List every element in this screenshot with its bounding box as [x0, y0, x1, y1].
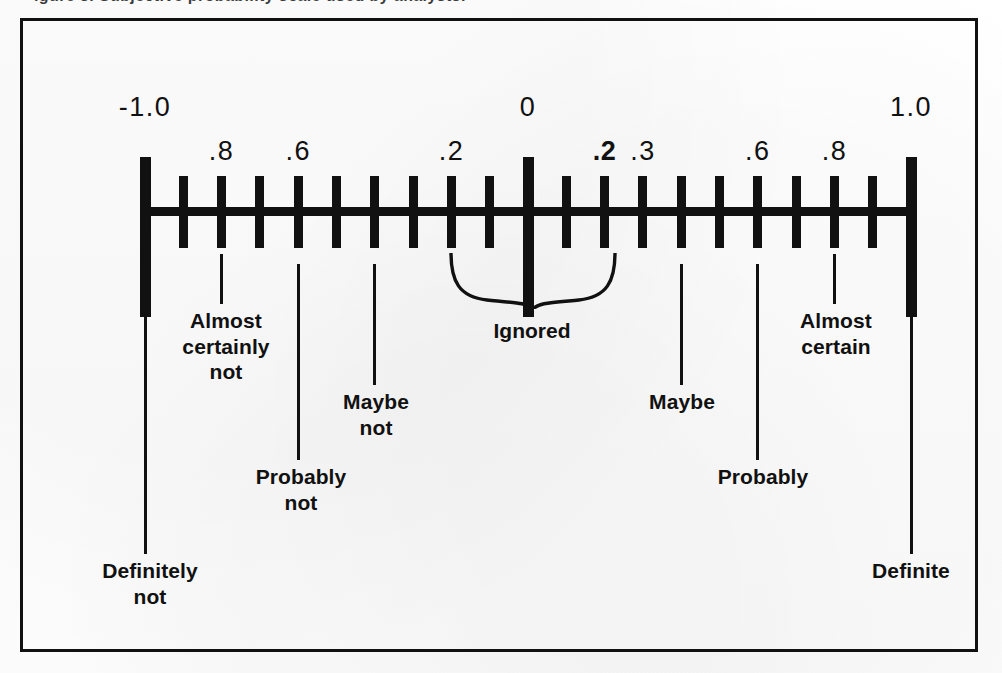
minor-tick	[562, 176, 571, 248]
minor-tick	[294, 176, 303, 248]
annotation-probably: Probably not	[256, 464, 347, 515]
ignored-region-label: Ignored	[494, 319, 571, 343]
annotation-maybe: Maybe not	[343, 389, 409, 440]
tick-label-neg0p6: .6	[285, 138, 311, 165]
minor-tick	[485, 176, 494, 248]
leader-line-probably	[297, 264, 300, 460]
minor-tick	[638, 176, 647, 248]
minor-tick	[370, 176, 379, 248]
leader-line-definite	[910, 264, 913, 554]
minor-tick	[677, 176, 686, 248]
cropped-caption-text: igure 3. Subjective probability scale us…	[34, 0, 934, 7]
tick-label-neg0p8: .8	[209, 138, 235, 165]
minor-tick	[868, 176, 877, 248]
minor-tick	[179, 176, 188, 248]
leader-line-maybe	[373, 264, 376, 385]
tick-label-1: 1.0	[890, 94, 932, 121]
annotation-almost: Almost certainly not	[182, 308, 269, 385]
minor-tick	[830, 176, 839, 248]
figure-page: igure 3. Subjective probability scale us…	[0, 0, 1002, 673]
annotation-maybe: Maybe	[649, 389, 715, 415]
tick-label-neg0p2: .2	[439, 138, 465, 165]
annotation-definitely: Definitely not	[102, 558, 198, 609]
minor-tick	[753, 176, 762, 248]
leader-line-almost	[833, 254, 836, 304]
minor-tick	[715, 176, 724, 248]
minor-tick	[255, 176, 264, 248]
leader-line-maybe	[680, 264, 683, 385]
tick-label-0p3: .3	[630, 138, 656, 165]
figure-frame-border: -1.0.8.6.20.2.3.6.81.0 Definitely notAlm…	[20, 18, 978, 652]
ignored-region-brace	[447, 253, 619, 309]
minor-tick	[792, 176, 801, 248]
tick-label-0p8: .8	[822, 138, 848, 165]
tick-label-neg1: -1.0	[119, 94, 172, 121]
tick-label-0: 0	[520, 94, 537, 121]
minor-tick	[447, 176, 456, 248]
minor-tick	[600, 176, 609, 248]
minor-tick	[217, 176, 226, 248]
leader-line-almost	[220, 254, 223, 304]
tick-label-0p6: .6	[745, 138, 771, 165]
leader-line-definitely	[144, 264, 147, 554]
tick-label-0p2: .2	[593, 138, 617, 165]
minor-tick	[332, 176, 341, 248]
annotation-probably: Probably	[718, 464, 809, 490]
annotation-definite: Definite	[872, 558, 950, 584]
annotation-almost: Almost certain	[800, 308, 872, 359]
minor-tick	[409, 176, 418, 248]
leader-line-probably	[756, 264, 759, 460]
